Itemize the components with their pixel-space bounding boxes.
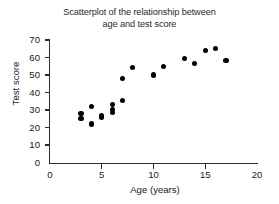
data-point xyxy=(151,72,156,77)
x-tick-mark xyxy=(205,164,206,169)
data-point xyxy=(182,56,187,61)
scatterplot-figure: Scatterplot of the relationship between … xyxy=(0,0,279,204)
data-point xyxy=(89,121,94,126)
x-tick-label: 5 xyxy=(87,170,117,180)
data-point xyxy=(203,48,208,53)
data-point xyxy=(120,98,125,103)
chart-title: Scatterplot of the relationship between … xyxy=(0,7,279,30)
y-tick-label: 10 xyxy=(12,140,40,150)
data-point xyxy=(120,76,125,81)
x-axis-title: Age (years) xyxy=(40,184,270,195)
data-point xyxy=(161,64,166,69)
y-axis-title: Test score xyxy=(10,29,21,139)
data-point xyxy=(78,116,83,121)
y-tick-label: 0 xyxy=(12,158,40,168)
x-tick-label: 20 xyxy=(242,170,272,180)
data-point xyxy=(99,114,104,119)
plot-area xyxy=(50,40,257,163)
data-point xyxy=(110,110,115,115)
data-point xyxy=(89,104,94,109)
data-point xyxy=(192,61,197,66)
data-point xyxy=(213,46,218,51)
x-tick-label: 15 xyxy=(190,170,220,180)
data-point xyxy=(130,65,135,70)
x-tick-mark xyxy=(153,164,154,169)
x-tick-label: 0 xyxy=(35,170,65,180)
data-point xyxy=(223,58,228,63)
x-tick-label: 10 xyxy=(139,170,169,180)
x-tick-mark xyxy=(101,164,102,169)
